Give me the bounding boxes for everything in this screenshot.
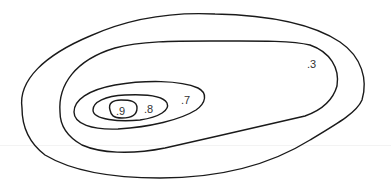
contour-level-3 (60, 41, 338, 152)
label-level-8: .8 (144, 103, 153, 115)
contour-diagram: .3 .7 .8 .9 (0, 0, 391, 188)
label-level-3: .3 (307, 58, 316, 70)
contour-outer (22, 14, 365, 178)
label-level-9: .9 (116, 105, 125, 117)
label-level-7: .7 (181, 94, 190, 106)
